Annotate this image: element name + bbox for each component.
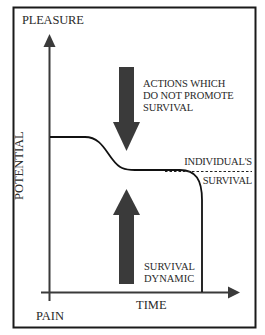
survival-potential-diagram: PLEASURE ACTIONS WHICH DO NOT PROMOTE SU…: [0, 0, 265, 335]
up-arrow-label: SURVIVAL DYNAMIC: [144, 261, 195, 285]
y-axis-title: POTENTIAL: [12, 100, 26, 200]
threshold-label-top: INDIVIDUAL'S: [177, 156, 252, 168]
x-axis-arrowhead-icon: [228, 287, 240, 299]
x-axis-title: TIME: [136, 298, 167, 312]
threshold-label-bottom: SURVIVAL: [177, 175, 252, 187]
x-axis: [41, 287, 240, 299]
y-axis: [44, 34, 56, 301]
down-arrow-icon: [113, 67, 140, 151]
up-arrow-icon: [113, 189, 140, 284]
y-axis-arrowhead-icon: [44, 34, 56, 47]
y-axis-bottom-label: PAIN: [36, 309, 64, 323]
down-arrow-label: ACTIONS WHICH DO NOT PROMOTE SURVIVAL: [143, 78, 234, 113]
y-axis-top-label: PLEASURE: [22, 13, 84, 27]
